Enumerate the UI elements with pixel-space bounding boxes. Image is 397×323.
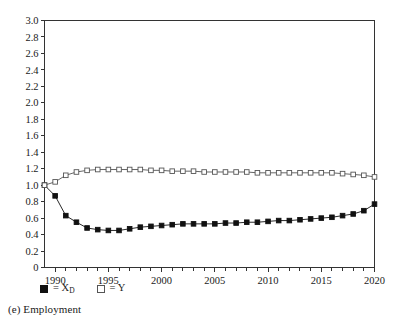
legend-entry-xd: = XD	[40, 283, 75, 294]
data-point-marker	[362, 208, 367, 213]
data-point-marker	[138, 167, 143, 172]
series-line-x-d	[45, 185, 375, 230]
data-point-marker	[159, 223, 164, 228]
data-point-marker	[95, 227, 100, 232]
data-point-marker	[287, 171, 292, 176]
data-point-marker	[213, 170, 218, 175]
x-tick-label: 2015	[311, 275, 332, 286]
figure-caption: (e) Employment	[8, 303, 81, 315]
data-point-marker	[74, 170, 79, 175]
data-point-marker	[362, 173, 367, 178]
x-tick-label: 2010	[258, 275, 279, 286]
series-line-y	[45, 170, 375, 186]
data-point-marker	[117, 228, 122, 233]
data-point-marker	[159, 168, 164, 173]
y-tick-label: 2.0	[25, 97, 38, 108]
x-tick-label: 2000	[151, 275, 172, 286]
data-point-marker	[53, 180, 58, 185]
data-point-marker	[181, 169, 186, 174]
data-point-marker	[276, 171, 281, 176]
data-point-marker	[255, 171, 260, 176]
data-point-marker	[202, 222, 207, 227]
data-point-marker	[74, 220, 79, 225]
data-point-marker	[330, 171, 335, 176]
data-point-marker	[149, 224, 154, 229]
data-point-marker	[287, 218, 292, 223]
data-point-marker	[63, 173, 68, 178]
data-point-marker	[351, 172, 356, 177]
data-point-marker	[223, 221, 228, 226]
y-tick-label: 1.8	[25, 114, 38, 125]
y-tick-label: 1.0	[25, 180, 38, 191]
open-square-icon	[97, 285, 105, 293]
data-point-marker	[106, 228, 111, 233]
data-point-marker	[106, 167, 111, 172]
data-point-marker	[42, 183, 47, 188]
data-point-marker	[319, 216, 324, 221]
data-point-marker	[308, 217, 313, 222]
data-point-marker	[85, 168, 90, 173]
data-point-marker	[138, 225, 143, 230]
y-tick-label: 2.8	[25, 32, 38, 43]
data-point-marker	[117, 167, 122, 172]
x-tick-label: 2020	[364, 275, 385, 286]
chart-legend: = XD = Y	[40, 283, 147, 294]
legend-label-xd: = XD	[53, 283, 75, 294]
data-point-marker	[351, 212, 356, 217]
legend-entry-y: = Y	[97, 283, 126, 294]
y-tick-label: 0	[33, 262, 38, 273]
data-point-marker	[255, 220, 260, 225]
filled-square-icon	[40, 285, 48, 293]
data-point-marker	[213, 222, 218, 227]
y-tick-label: 0.8	[25, 196, 38, 207]
y-tick-label: 2.4	[25, 65, 39, 76]
data-point-marker	[276, 218, 281, 223]
y-tick-label: 1.6	[25, 130, 38, 141]
figure-employment: 00.20.40.60.81.01.21.41.61.82.02.22.42.6…	[0, 0, 397, 323]
data-point-marker	[85, 226, 90, 231]
data-point-marker	[191, 169, 196, 174]
data-point-marker	[63, 213, 68, 218]
data-point-marker	[53, 194, 58, 199]
legend-label-xd-subscript: D	[69, 286, 74, 295]
chart-axes: 00.20.40.60.81.01.21.41.61.82.02.22.42.6…	[25, 15, 385, 285]
data-point-marker	[372, 175, 377, 180]
y-tick-label: 2.6	[25, 48, 38, 59]
data-point-marker	[308, 171, 313, 176]
y-tick-label: 1.4	[25, 147, 39, 158]
data-point-marker	[149, 168, 154, 173]
data-point-marker	[330, 215, 335, 220]
data-point-marker	[191, 222, 196, 227]
data-point-marker	[170, 169, 175, 174]
data-point-marker	[340, 213, 345, 218]
data-point-marker	[202, 170, 207, 175]
data-point-marker	[340, 171, 345, 176]
data-point-marker	[319, 171, 324, 176]
employment-line-chart: 00.20.40.60.81.01.21.41.61.82.02.22.42.6…	[0, 0, 397, 323]
data-point-marker	[95, 167, 100, 172]
y-tick-label: 0.6	[25, 213, 38, 224]
data-point-marker	[127, 227, 132, 232]
data-point-marker	[170, 222, 175, 227]
legend-label-y: = Y	[110, 283, 126, 294]
y-tick-label: 1.2	[25, 163, 38, 174]
y-tick-label: 2.2	[25, 81, 38, 92]
chart-series	[42, 167, 377, 233]
data-point-marker	[266, 171, 271, 176]
y-tick-label: 0.4	[25, 229, 39, 240]
y-tick-label: 3.0	[25, 15, 38, 26]
data-point-marker	[181, 222, 186, 227]
data-point-marker	[266, 219, 271, 224]
data-point-marker	[127, 167, 132, 172]
data-point-marker	[244, 170, 249, 175]
data-point-marker	[223, 170, 228, 175]
data-point-marker	[234, 170, 239, 175]
data-point-marker	[372, 202, 377, 207]
data-point-marker	[298, 171, 303, 176]
x-tick-label: 2005	[204, 275, 225, 286]
y-tick-label: 0.2	[25, 246, 38, 257]
data-point-marker	[244, 220, 249, 225]
data-point-marker	[298, 217, 303, 222]
data-point-marker	[234, 221, 239, 226]
